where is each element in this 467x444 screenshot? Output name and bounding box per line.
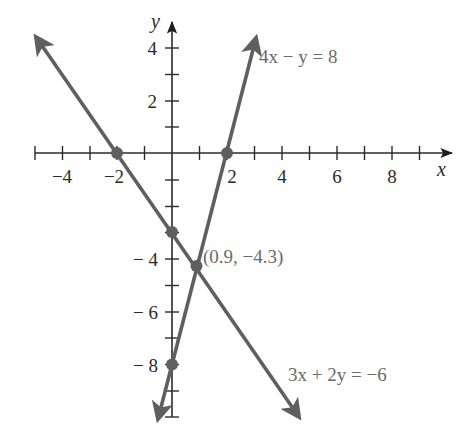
equation-label-line1: 4x − y = 8: [259, 46, 337, 67]
y-tick-label: − 4: [133, 249, 158, 270]
y-tick-label: − 6: [133, 302, 158, 323]
y-tick-label: 4: [148, 38, 158, 59]
x-tick-label: 6: [332, 166, 342, 187]
equation-text: 3x + 2y = −6: [288, 364, 387, 385]
x-intercept-point: [111, 147, 123, 159]
x-tick-label: 4: [277, 166, 287, 187]
x-axis: −4 −2 2 4 6 8 x: [35, 146, 452, 187]
y-tick-label: − 8: [133, 355, 158, 376]
y-tick-label: 2: [148, 91, 158, 112]
equation-label-line2: 3x + 2y = −6: [288, 364, 387, 385]
y-intercept-point: [166, 226, 178, 238]
x-tick-label: 2: [227, 166, 237, 187]
x-intercept-point: [221, 147, 233, 159]
line-3x-plus-2y-eq-neg6: [36, 37, 299, 417]
y-intercept-point: [166, 359, 178, 371]
y-axis-label: y: [149, 10, 160, 33]
x-tick-label: 8: [387, 166, 397, 187]
equation-text: 4x − y = 8: [259, 46, 337, 67]
x-tick-label: −4: [52, 166, 73, 187]
x-axis-label: x: [436, 158, 446, 180]
intersection-label: (0.9, −4.3): [203, 246, 283, 268]
graph-figure: −4 −2 2 4 6 8 x: [0, 0, 467, 444]
x-tick-label: −2: [104, 166, 124, 187]
intersection-point: [191, 260, 203, 272]
coordinate-plane: −4 −2 2 4 6 8 x: [0, 0, 467, 444]
